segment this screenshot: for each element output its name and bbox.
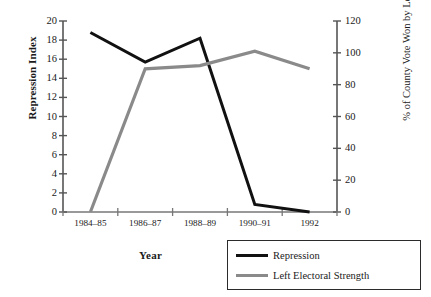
y-axis-left-tick-label: 16 (17, 54, 57, 64)
chart-figure: Repression Index % of County Vote Won by… (0, 0, 431, 297)
x-axis-title: Year (139, 249, 162, 261)
series-line (90, 51, 309, 212)
y-axis-left-tick-label: 20 (17, 16, 57, 26)
y-axis-right-tick-label: 20 (345, 175, 385, 185)
y-axis-left-tick-label: 6 (17, 150, 57, 160)
y-axis-right-tick-label: 40 (345, 143, 385, 153)
y-axis-left-tick-label: 4 (17, 169, 57, 179)
y-axis-left-tick-label: 12 (17, 92, 57, 102)
y-axis-left-tick-label: 14 (17, 73, 57, 83)
y-axis-right-tick-label: 80 (345, 80, 385, 90)
legend-item-left-electoral-strength: Left Electoral Strength (236, 268, 369, 282)
y-axis-right-tick-label: 60 (345, 112, 385, 122)
y-axis-left-tick-label: 8 (17, 131, 57, 141)
y-axis-left-tick-label: 18 (17, 35, 57, 45)
y-axis-right-tick-label: 100 (345, 48, 385, 58)
x-axis-tick-label: 1992 (275, 218, 345, 228)
legend-label: Left Electoral Strength (273, 270, 369, 281)
y-axis-right-tick-label: 0 (345, 207, 385, 217)
y-axis-left-tick-label: 0 (17, 207, 57, 217)
y-axis-right-tick-label: 120 (345, 16, 385, 26)
legend: Repression Left Electoral Strength (227, 240, 421, 290)
y-axis-right-title: % of County Vote Won by Left (401, 0, 412, 151)
y-axis-left-tick-label: 2 (17, 188, 57, 198)
legend-swatch-line-icon (236, 254, 268, 257)
y-axis-left-tick-label: 10 (17, 112, 57, 122)
legend-item-repression: Repression (236, 248, 320, 262)
legend-swatch-line-icon (236, 274, 268, 277)
legend-label: Repression (273, 250, 320, 261)
